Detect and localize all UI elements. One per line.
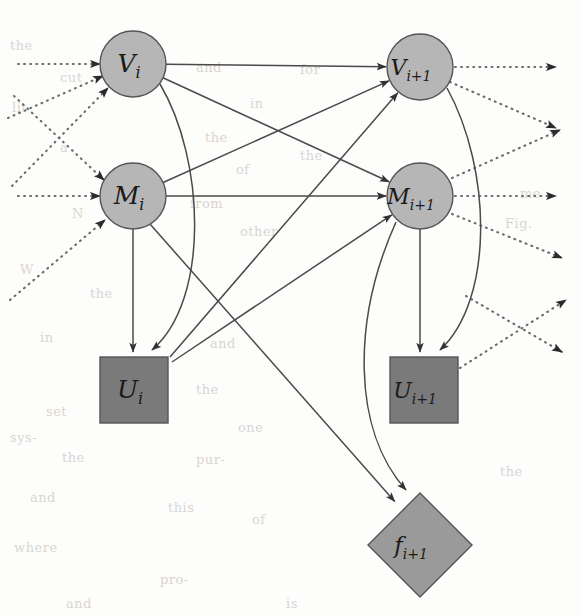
diagram-canvas: thecutlit-andforintheaofthefromNothermeF… xyxy=(0,0,582,616)
node-m-i[interactable]: Mi xyxy=(100,163,166,229)
dotted-edge-out-u-2 xyxy=(466,296,562,352)
influence-diagram: ViVi+1MiMi+1UiUi+1fi+1 xyxy=(0,0,582,616)
dotted-edge-in-v-2 xyxy=(8,76,103,118)
edge-vi-to-mi1 xyxy=(163,78,389,182)
node-v-i1[interactable]: Vi+1 xyxy=(387,34,453,100)
node-u-i1[interactable]: Ui+1 xyxy=(390,357,458,423)
node-label-subscript: i+1 xyxy=(410,197,435,213)
dotted-edge-out-m-3 xyxy=(452,214,562,258)
edge-ui-to-mi1 xyxy=(172,215,392,362)
node-layer: ViVi+1MiMi+1UiUi+1fi+1 xyxy=(100,31,472,597)
node-label-subscript: i+1 xyxy=(403,546,428,562)
dotted-edge-in-m-1 xyxy=(14,96,104,180)
edge-ui-to-vi1 xyxy=(170,93,398,357)
node-m-i1[interactable]: Mi+1 xyxy=(386,163,453,229)
edge-layer xyxy=(8,64,566,502)
dotted-edge-out-m-1 xyxy=(452,130,560,178)
dotted-edge-in-m-3 xyxy=(10,220,105,300)
node-u-i[interactable]: Ui xyxy=(100,357,168,423)
node-label-subscript: i+1 xyxy=(412,391,437,407)
node-label-subscript: i xyxy=(139,195,144,214)
dotted-edge-out-u-1 xyxy=(460,300,566,368)
edge-mi1-to-fi1 xyxy=(364,222,406,490)
edge-vi1-to-ui1 xyxy=(440,88,481,350)
dotted-edge-out-v-2 xyxy=(450,82,556,128)
node-label-subscript: i xyxy=(135,63,140,82)
node-label-subscript: i+1 xyxy=(406,68,431,84)
edge-vi-to-vi1 xyxy=(166,64,386,66)
node-v-i[interactable]: Vi xyxy=(100,31,166,97)
node-f-i1[interactable]: fi+1 xyxy=(368,493,472,597)
edge-mi-to-vi1 xyxy=(163,81,389,183)
edge-mi-to-fi1 xyxy=(150,224,395,502)
node-label-subscript: i xyxy=(138,389,143,408)
